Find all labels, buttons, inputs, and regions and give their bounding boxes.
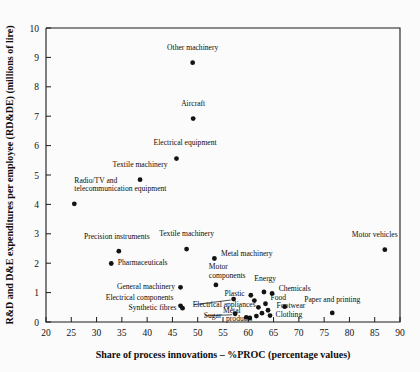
- data-point: [174, 156, 179, 161]
- y-tick-label: 7: [34, 112, 39, 122]
- data-point-label: Precision instruments: [84, 232, 150, 241]
- data-point-label: Chemicals: [279, 284, 311, 293]
- y-axis-title: R&D and D&E expenditures per employee (R…: [4, 25, 16, 324]
- data-point-label: Motor vehicles: [352, 230, 398, 239]
- scatter-plot-canvas: 202530354045505560657075808590 012345678…: [0, 0, 420, 372]
- x-tick-label: 75: [319, 328, 329, 338]
- data-point: [109, 261, 114, 266]
- y-tick-label: 2: [34, 259, 39, 269]
- data-point: [116, 249, 121, 254]
- data-point: [138, 177, 143, 182]
- data-point-label: Plastic: [224, 289, 245, 298]
- data-point-label: Synthetic fibres: [129, 303, 177, 312]
- y-tick-label: 9: [34, 53, 39, 63]
- x-axis-title: Share of process innovations – %PROC (pe…: [96, 349, 351, 361]
- x-tick-label: 65: [269, 328, 279, 338]
- data-point-label: Textile machinery: [159, 229, 214, 238]
- x-tick-label: 80: [345, 328, 355, 338]
- data-point-label: Aircraft: [181, 99, 206, 108]
- data-point-label: Sugar: [204, 311, 222, 320]
- data-point: [180, 306, 185, 311]
- x-tick-label: 55: [218, 328, 228, 338]
- x-tick-label: 50: [193, 328, 203, 338]
- data-point-label: Other machinery: [167, 43, 218, 52]
- data-point: [268, 313, 273, 318]
- y-tick-label: 1: [34, 288, 39, 298]
- data-point: [256, 305, 261, 310]
- y-tick-label: 5: [34, 171, 39, 181]
- data-point-label: Radio/TV and: [74, 176, 117, 185]
- data-point: [260, 311, 265, 316]
- data-point-label: Electrical equipment: [154, 138, 218, 147]
- data-point: [212, 256, 217, 261]
- scatter-chart-figure: 202530354045505560657075808590 012345678…: [0, 0, 420, 372]
- y-tick-label: 10: [30, 24, 40, 34]
- data-point: [191, 116, 196, 121]
- y-tick-label: 8: [34, 82, 39, 92]
- data-point-label: General machinery: [117, 282, 175, 291]
- x-tick-label: 90: [395, 328, 405, 338]
- data-point-label: Clothing: [276, 310, 303, 319]
- x-tick-label: 35: [117, 328, 127, 338]
- data-point: [266, 308, 271, 313]
- data-point: [262, 290, 267, 295]
- data-point-label: Energy: [254, 274, 276, 283]
- data-point: [330, 310, 335, 315]
- data-point: [263, 301, 268, 306]
- x-tick-label: 45: [168, 328, 178, 338]
- data-point: [248, 293, 253, 298]
- data-point-label: Textile machinery: [113, 160, 168, 169]
- data-point: [254, 314, 259, 319]
- x-tick-label: 25: [67, 328, 77, 338]
- data-point-label: Pharmaceuticals: [118, 258, 168, 267]
- x-tick-label: 70: [294, 328, 304, 338]
- data-point-label: components: [209, 271, 246, 280]
- x-tick-label: 85: [370, 328, 380, 338]
- x-tick-label: 30: [92, 328, 102, 338]
- y-tick-label: 0: [34, 318, 39, 328]
- data-point: [190, 60, 195, 65]
- data-point: [214, 283, 219, 288]
- data-point: [178, 285, 183, 290]
- y-tick-label: 4: [34, 200, 39, 210]
- data-point: [184, 247, 189, 252]
- x-tick-label: 20: [41, 328, 51, 338]
- x-tick-label: 40: [142, 328, 152, 338]
- y-tick-label: 6: [34, 141, 39, 151]
- y-tick-label: 3: [34, 229, 39, 239]
- data-point: [382, 247, 387, 252]
- data-point: [72, 201, 77, 206]
- data-point-label: Electrical components: [106, 293, 174, 302]
- data-point-label: telecommunication equipment: [74, 184, 167, 193]
- data-point-label: products: [226, 314, 252, 323]
- data-point-label: Motor: [209, 262, 228, 271]
- data-point-label: Paper and printing: [304, 295, 360, 304]
- x-tick-label: 60: [244, 328, 254, 338]
- data-point-label: Metal machinery: [221, 249, 273, 258]
